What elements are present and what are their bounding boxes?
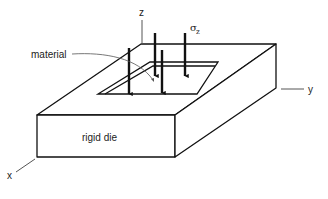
z-axis: z xyxy=(139,7,144,44)
x-axis-label: x xyxy=(7,170,12,181)
material-label: material xyxy=(31,49,67,60)
stress-label: σ z xyxy=(190,22,200,36)
rigid-die-block xyxy=(37,44,276,157)
rigid-die-label: rigid die xyxy=(82,132,117,143)
confined-compression-diagram: z y x σ z material rigid die xyxy=(0,0,328,199)
y-axis-label: y xyxy=(308,84,313,95)
z-axis-label: z xyxy=(139,7,144,18)
sigma-subscript: z xyxy=(196,28,200,36)
y-axis: y xyxy=(281,84,313,95)
x-axis: x xyxy=(7,159,35,181)
